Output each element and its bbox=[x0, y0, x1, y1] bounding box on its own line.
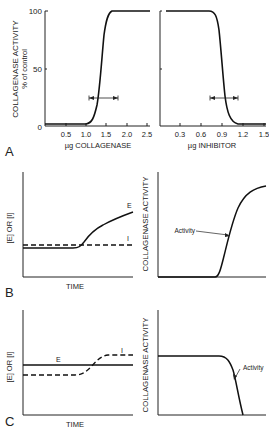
a-left-xlabel: µg COLLAGENASE bbox=[65, 141, 131, 150]
c-i-label: I bbox=[121, 347, 123, 354]
b-activity-label: Activity bbox=[174, 227, 195, 235]
panel-a: 100 50 0 0.5 1.0 1.5 2.0 2.5 µg COLLAGEN… bbox=[5, 7, 269, 159]
a-left-xtick: 1.5 bbox=[101, 130, 111, 139]
b-e-label: E bbox=[127, 202, 132, 209]
c-ylabel: [E] OR [I] bbox=[5, 352, 14, 383]
a-right-xtick: 0.3 bbox=[175, 130, 185, 139]
a-left-xtick: 1.0 bbox=[81, 130, 91, 139]
c-activity-label: Activity bbox=[243, 364, 264, 372]
c-e-label: E bbox=[56, 356, 61, 363]
a-right-xtick: 1.2 bbox=[238, 130, 248, 139]
a-collagenase-curve bbox=[45, 11, 150, 124]
a-right-xlabel: µg INHIBITOR bbox=[188, 141, 237, 150]
a-ytick-100: 100 bbox=[29, 7, 43, 16]
panel-label-a: A bbox=[5, 144, 14, 159]
b-i-label: I bbox=[127, 235, 129, 242]
c-right-ylabel: COLLAGENASE ACTIVITY bbox=[141, 317, 150, 413]
a-left-xtick: 2.5 bbox=[142, 130, 152, 139]
b-ylabel: [E] OR [I] bbox=[5, 213, 14, 244]
panel-b: [E] OR [I] TIME E I COLLAGENASE ACTIVITY… bbox=[5, 172, 266, 300]
a-right-xtick: 0.9 bbox=[217, 130, 227, 139]
a-ylabel: COLLAGENASE ACTIVITY bbox=[11, 20, 20, 118]
a-inhibitor-curve bbox=[166, 11, 266, 124]
b-activity-pointer bbox=[196, 231, 228, 235]
a-right-xtick: 1.5 bbox=[259, 130, 269, 139]
a-ytick-0: 0 bbox=[38, 123, 43, 132]
a-left-xtick: 2.0 bbox=[122, 130, 132, 139]
panel-c: [E] OR [I] TIME E I COLLAGENASE ACTIVITY… bbox=[5, 310, 266, 429]
a-left-xtick: 0.5 bbox=[61, 130, 71, 139]
panel-label-b: B bbox=[5, 285, 14, 300]
b-xlabel: TIME bbox=[66, 282, 84, 291]
c-activity-curve bbox=[158, 356, 243, 415]
figure: 100 50 0 0.5 1.0 1.5 2.0 2.5 µg COLLAGEN… bbox=[0, 0, 269, 430]
a-right-xtick: 0.6 bbox=[196, 130, 206, 139]
c-xlabel: TIME bbox=[66, 420, 84, 429]
a-ylabel-sub: % of control bbox=[20, 49, 29, 89]
b-e-series bbox=[23, 212, 133, 248]
a-ytick-50: 50 bbox=[33, 65, 42, 74]
panel-label-c: C bbox=[5, 414, 14, 429]
b-right-ylabel: COLLAGENASE ACTIVITY bbox=[141, 176, 150, 272]
